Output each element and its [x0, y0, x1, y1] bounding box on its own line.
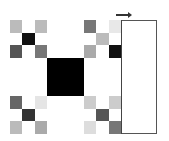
grid-cell [72, 121, 84, 134]
grid-cell [35, 96, 47, 109]
grid-cell [22, 58, 34, 71]
arrow-right-icon [116, 14, 130, 16]
grid-cell [96, 109, 108, 122]
grid-cell [35, 20, 47, 33]
grid-cell [22, 121, 34, 134]
grid-cell [109, 33, 121, 46]
grid-cell [96, 121, 108, 134]
grid-cell [84, 96, 96, 109]
grid-cell [109, 71, 121, 84]
grid-cell [10, 121, 22, 134]
grid-cell [22, 83, 34, 96]
grid-cell [59, 33, 71, 46]
grid-cell [96, 83, 108, 96]
grid-cell [47, 20, 59, 33]
grid-cell [96, 45, 108, 58]
grid-cell [59, 109, 71, 122]
grid-cell [109, 96, 121, 109]
grid-cell [10, 45, 22, 58]
center-black-square [47, 58, 84, 96]
grid-cell [84, 20, 96, 33]
grid-cell [22, 96, 34, 109]
grid-cell [35, 58, 47, 71]
grid-cell [59, 20, 71, 33]
grid-cell [84, 33, 96, 46]
grid-cell [109, 20, 121, 33]
grid-cell [109, 83, 121, 96]
grid-cell [10, 20, 22, 33]
grid-cell [10, 71, 22, 84]
grid-cell [72, 109, 84, 122]
grid-cell [72, 20, 84, 33]
grid-cell [35, 71, 47, 84]
grid-cell [35, 109, 47, 122]
grid-cell [84, 45, 96, 58]
grid-cell [72, 33, 84, 46]
grid-cell [109, 109, 121, 122]
grid-cell [59, 96, 71, 109]
grid-cell [96, 96, 108, 109]
grid-cell [72, 45, 84, 58]
grid-cell [72, 96, 84, 109]
grid-cell [35, 45, 47, 58]
grid-cell [84, 121, 96, 134]
grid-cell [96, 58, 108, 71]
grid-cell [22, 33, 34, 46]
grid-cell [47, 109, 59, 122]
grid-cell [96, 33, 108, 46]
grid-cell [22, 45, 34, 58]
grid-cell [109, 121, 121, 134]
grid-cell [47, 45, 59, 58]
grid-cell [109, 45, 121, 58]
grid-cell [47, 33, 59, 46]
grid-cell [47, 121, 59, 134]
grid-cell [84, 109, 96, 122]
grid-cell [35, 33, 47, 46]
grid-cell [84, 71, 96, 84]
grid-cell [59, 45, 71, 58]
grid-cell [109, 58, 121, 71]
grid-cell [10, 33, 22, 46]
grid-cell [35, 83, 47, 96]
grid-cell [10, 83, 22, 96]
grid-cell [22, 20, 34, 33]
grid-cell [10, 58, 22, 71]
grid-cell [47, 96, 59, 109]
grid-cell [10, 109, 22, 122]
grid-cell [35, 121, 47, 134]
grid-cell [84, 58, 96, 71]
grid-cell [10, 96, 22, 109]
grid-cell [59, 121, 71, 134]
grid-cell [22, 109, 34, 122]
grid-cell [84, 83, 96, 96]
grid-cell [96, 71, 108, 84]
grid-cell [22, 71, 34, 84]
grid-cell [96, 20, 108, 33]
